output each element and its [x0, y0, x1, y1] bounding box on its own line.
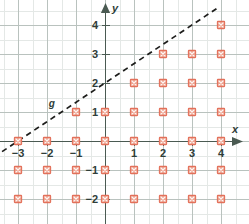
data-point-marker — [14, 137, 21, 144]
x-axis-label: x — [232, 124, 238, 135]
data-point-marker — [14, 195, 21, 202]
data-point-marker — [188, 50, 195, 57]
data-point-marker — [130, 166, 137, 173]
data-point-marker — [188, 195, 195, 202]
data-point-marker — [14, 166, 21, 173]
data-point-marker — [188, 79, 195, 86]
y-tick-label: 4 — [71, 20, 98, 31]
data-point-marker — [101, 195, 108, 202]
x-tick-label: 1 — [120, 148, 148, 159]
data-point-marker — [217, 21, 224, 28]
x-tick-label: −3 — [4, 148, 32, 159]
data-point-marker — [159, 137, 166, 144]
data-point-marker — [217, 137, 224, 144]
data-point-marker — [72, 137, 79, 144]
y-tick-label: −2 — [71, 194, 98, 205]
y-tick-label: −1 — [71, 165, 98, 176]
data-point-marker — [159, 166, 166, 173]
data-point-marker — [43, 166, 50, 173]
data-point-marker — [217, 108, 224, 115]
data-point-marker — [159, 195, 166, 202]
data-point-marker — [130, 195, 137, 202]
data-point-marker — [101, 137, 108, 144]
data-point-marker — [217, 50, 224, 57]
x-tick-label: 4 — [207, 148, 235, 159]
plot-canvas — [0, 0, 249, 224]
data-point-marker — [101, 108, 108, 115]
data-point-marker — [43, 195, 50, 202]
y-axis-label: y — [112, 3, 118, 14]
y-tick-label: 3 — [71, 49, 98, 60]
y-tick-label: 1 — [71, 107, 98, 118]
data-point-marker — [159, 50, 166, 57]
data-point-marker — [188, 108, 195, 115]
x-tick-label: 2 — [149, 148, 177, 159]
data-point-marker — [159, 79, 166, 86]
line-g-label: g — [49, 99, 55, 109]
data-point-marker — [217, 166, 224, 173]
data-point-marker — [130, 137, 137, 144]
data-point-marker — [188, 166, 195, 173]
coordinate-plane-figure: x y g −3−2−11234−2−11234 — [0, 0, 249, 224]
data-point-marker — [159, 108, 166, 115]
data-point-marker — [188, 137, 195, 144]
data-point-marker — [217, 195, 224, 202]
data-point-marker — [130, 108, 137, 115]
data-point-marker — [130, 79, 137, 86]
x-tick-label: −2 — [33, 148, 61, 159]
y-tick-label: 2 — [71, 78, 98, 89]
data-point-marker — [101, 166, 108, 173]
data-point-marker — [217, 79, 224, 86]
x-tick-label: 3 — [178, 148, 206, 159]
x-tick-label: −1 — [62, 148, 90, 159]
data-point-marker — [43, 137, 50, 144]
